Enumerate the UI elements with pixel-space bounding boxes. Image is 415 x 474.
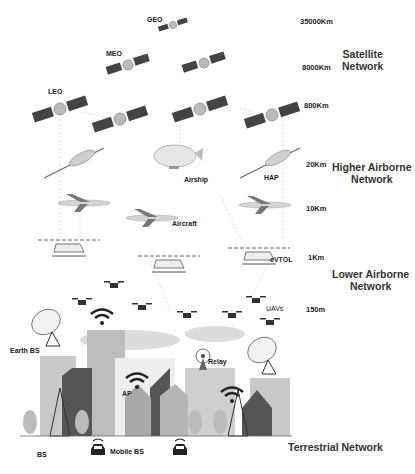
uav-icon <box>104 279 124 291</box>
altitude-uav: 150m <box>306 305 325 314</box>
meo-satellite-icon <box>106 55 150 75</box>
earth-bs-label: Earth BS <box>10 347 40 354</box>
uav-icon <box>246 294 266 306</box>
mobile-bs-car-icon <box>89 437 107 457</box>
layer-higher-airborne: Higher Airborne Network <box>332 161 412 185</box>
layer-higher-airborne-line2: Network <box>332 173 412 185</box>
altitude-meo: 8000Km <box>302 63 331 72</box>
layer-lower-airborne-line1: Lower Airborne <box>332 268 409 280</box>
layer-satellite-line1: Satellite <box>342 48 383 60</box>
aircraft-label: Aircraft <box>172 220 197 227</box>
wifi-icon <box>89 308 115 326</box>
altitude-aircraft: 10Km <box>306 204 326 213</box>
mobile-bs-label: Mobile BS <box>110 448 144 455</box>
uav-icon <box>72 296 92 308</box>
leo-satellite-icon <box>32 96 88 122</box>
meo-satellite-icon <box>182 53 226 73</box>
mobile-bs-car-icon <box>171 437 189 457</box>
geo-label: GEO <box>147 16 163 23</box>
airship-icon <box>153 143 205 173</box>
leo-satellite-icon <box>244 102 300 128</box>
layer-satellite-line2: Network <box>342 60 383 72</box>
altitude-hap: 20Km <box>306 160 326 169</box>
wifi-icon <box>219 386 245 404</box>
leo-satellite-icon <box>92 106 148 132</box>
evtol-icon <box>36 236 102 260</box>
leo-label: LEO <box>48 88 62 95</box>
aircraft-icon <box>120 207 180 229</box>
layer-satellite: Satellite Network <box>342 48 383 72</box>
wifi-icon <box>124 372 150 390</box>
layer-lower-airborne: Lower Airborne Network <box>332 268 409 292</box>
evtol-label: eVTOL <box>270 256 292 263</box>
layer-higher-airborne-line1: Higher Airborne <box>332 161 412 173</box>
leo-satellite-icon <box>172 96 228 122</box>
hap-label: HAP <box>264 174 279 181</box>
altitude-leo: 800Km <box>304 101 329 110</box>
earth-bs-dish-icon <box>28 306 68 346</box>
uavs-label: UAVs <box>266 305 283 312</box>
bs-label: BS <box>37 451 47 458</box>
ap-label: AP <box>122 390 132 397</box>
relay-label: Relay <box>208 358 227 365</box>
aircraft-icon <box>52 192 112 214</box>
meo-label: MEO <box>106 50 122 57</box>
altitude-geo: 35000Km <box>300 17 333 26</box>
uav-icon <box>132 301 152 313</box>
airship-label: Airship <box>184 176 208 183</box>
earth-bs-dish-icon <box>244 334 284 374</box>
altitude-evtol: 1Km <box>308 253 324 262</box>
hap-drone-icon <box>44 146 104 180</box>
evtol-icon <box>136 252 202 276</box>
aircraft-icon <box>233 194 293 216</box>
layer-lower-airborne-line2: Network <box>332 280 409 292</box>
